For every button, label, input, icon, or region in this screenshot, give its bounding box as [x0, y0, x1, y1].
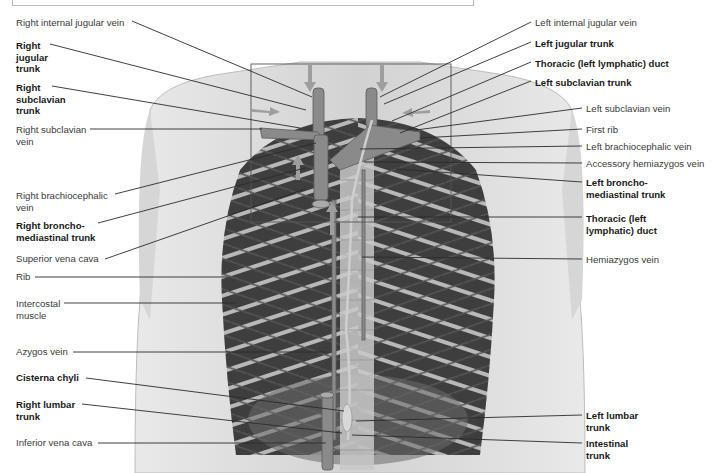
label-first-rib: First rib — [586, 124, 618, 136]
label-right-brachiocephalic-vein: Right brachiocephalic vein — [16, 190, 108, 213]
label-left-lumbar-trunk: Left lumbar trunk — [586, 410, 638, 433]
label-right-bronchomediastinal-trunk: Right broncho- mediastinal trunk — [16, 220, 95, 243]
label-left-internal-jugular-vein: Left internal jugular vein — [535, 17, 637, 29]
thorax-illustration — [0, 0, 716, 473]
label-superior-vena-cava: Superior vena cava — [16, 253, 99, 265]
label-hemiazygos-vein: Hemiazygos vein — [586, 254, 659, 266]
svc-cut — [312, 200, 330, 208]
label-left-jugular-trunk: Left jugular trunk — [535, 38, 614, 50]
label-right-subclavian-trunk: Right subclavian trunk — [16, 82, 66, 117]
label-right-subclavian-vein: Right subclavian vein — [16, 124, 86, 147]
inferior-vena-cava-shape — [322, 395, 333, 470]
label-accessory-hemiazygos-vein: Accessory hemiazygos vein — [586, 158, 704, 170]
label-intercostal-muscle: Intercostal muscle — [16, 298, 60, 321]
label-right-lumbar-trunk: Right lumbar trunk — [16, 399, 75, 422]
label-left-brachiocephalic-vein: Left brachiocephalic vein — [586, 141, 692, 153]
label-right-jugular-trunk: Right jugular trunk — [16, 40, 48, 75]
label-rib: Rib — [16, 271, 30, 283]
label-inferior-vena-cava: Inferior vena cava — [16, 437, 92, 449]
ivc-cut — [320, 392, 334, 398]
cisterna-chyli-shape — [342, 404, 352, 432]
hemiazygos-vein-shape — [362, 170, 365, 340]
label-left-subclavian-vein: Left subclavian vein — [586, 103, 670, 115]
label-intestinal-trunk: Intestinal trunk — [586, 438, 628, 461]
label-thoracic-duct-lower: Thoracic (left lymphatic) duct — [586, 213, 657, 236]
label-thoracic-duct-top: Thoracic (left lymphatic) duct — [535, 58, 669, 70]
label-cisterna-chyli: Cisterna chyli — [16, 372, 79, 384]
label-left-subclavian-trunk: Left subclavian trunk — [535, 77, 632, 89]
label-right-internal-jugular-vein: Right internal jugular vein — [16, 17, 124, 29]
right-internal-jugular-vein-shape — [313, 88, 324, 138]
label-left-bronchomediastinal-trunk: Left broncho- mediastinal trunk — [586, 177, 665, 200]
label-azygos-vein: Azygos vein — [16, 346, 68, 358]
superior-vena-cava-shape — [314, 135, 328, 200]
